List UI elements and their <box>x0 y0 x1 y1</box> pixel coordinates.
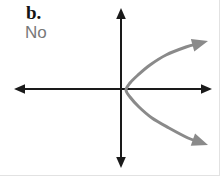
x-axis-right-arrowhead <box>201 84 212 94</box>
coordinate-plane-plot <box>0 0 220 176</box>
figure-container: b. No <box>0 0 220 176</box>
x-axis-left-arrowhead <box>14 84 25 94</box>
parabola-upper-arrowhead <box>191 39 208 52</box>
sideways-parabola-curve <box>126 44 198 141</box>
y-axis-bottom-arrowhead <box>116 157 126 168</box>
parabola-curve-group <box>126 39 208 146</box>
parabola-lower-arrowhead <box>191 134 208 146</box>
axes-group <box>14 8 212 168</box>
y-axis-top-arrowhead <box>116 8 126 19</box>
